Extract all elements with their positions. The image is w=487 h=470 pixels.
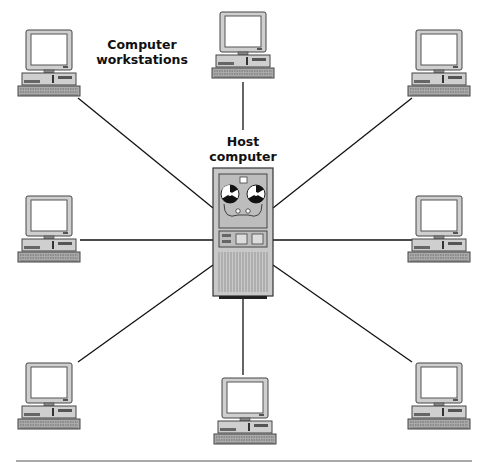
host-label-line2: computer [203, 149, 283, 164]
workstation-bottom-right-icon [408, 363, 470, 429]
workstation-top-right-icon [408, 30, 470, 96]
link-top-left [78, 98, 213, 208]
workstation-top-center-icon [212, 12, 274, 78]
workstation-top-left-icon [18, 30, 80, 96]
workstation-middle-right-icon [408, 196, 470, 262]
workstations-label: Computer workstations [82, 37, 202, 67]
workstation-bottom-center-icon [214, 378, 276, 444]
link-bottom-right [273, 265, 412, 362]
star-network-diagram [0, 0, 487, 470]
link-top-right [273, 98, 412, 208]
host-label-line1: Host [203, 134, 283, 149]
workstation-middle-left-icon [18, 196, 80, 262]
link-bottom-left [78, 265, 213, 362]
workstation-bottom-left-icon [18, 363, 80, 429]
workstations-label-line1: Computer [82, 37, 202, 52]
host-computer-icon [213, 168, 273, 299]
workstations-label-line2: workstations [82, 52, 202, 67]
host-label: Host computer [203, 134, 283, 164]
